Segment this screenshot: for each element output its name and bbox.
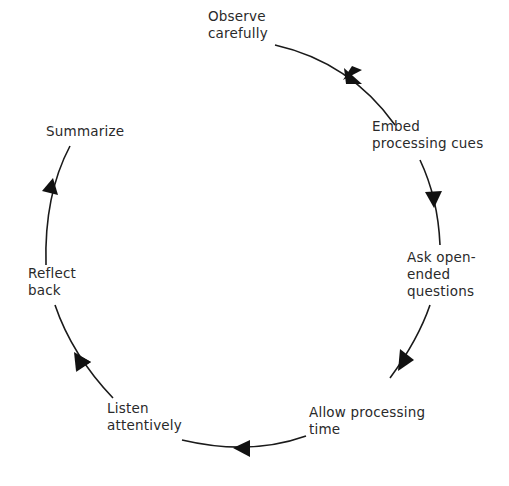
step-label-line: back xyxy=(28,282,76,299)
step-label-line: Summarize xyxy=(46,123,124,140)
step-allow: Allow processing time xyxy=(309,404,425,438)
arrowhead-icon xyxy=(398,349,414,371)
step-label-line: Observe xyxy=(208,8,268,25)
step-label-line: ended xyxy=(407,266,476,283)
cycle-arrows xyxy=(0,0,509,486)
step-label-line: Ask open- xyxy=(407,249,476,266)
step-label-line: processing cues xyxy=(372,135,483,152)
step-label-line: time xyxy=(309,421,425,438)
step-label-line: Embed xyxy=(372,118,483,135)
arc-observe-to-embed xyxy=(275,45,395,125)
step-label-line: attentively xyxy=(107,417,182,434)
arrowhead-icon xyxy=(425,191,442,208)
arrowhead-icon xyxy=(233,440,250,457)
step-label-line: Allow processing xyxy=(309,404,425,421)
step-observe: Observe carefully xyxy=(208,8,268,42)
step-ask: Ask open- ended questions xyxy=(407,249,476,300)
arc-reflect-to-summarize xyxy=(46,146,70,265)
step-label-line: Reflect xyxy=(28,265,76,282)
step-label-line: carefully xyxy=(208,25,268,42)
step-label-line: Listen xyxy=(107,400,182,417)
arc-embed-to-ask xyxy=(420,160,440,245)
step-listen: Listen attentively xyxy=(107,400,182,434)
step-embed: Embed processing cues xyxy=(372,118,483,152)
arc-ask-to-allow xyxy=(390,305,430,378)
arc-listen-to-reflect xyxy=(55,305,113,398)
step-label-line: questions xyxy=(407,283,476,300)
step-reflect: Reflect back xyxy=(28,265,76,299)
step-summarize: Summarize xyxy=(46,123,124,140)
